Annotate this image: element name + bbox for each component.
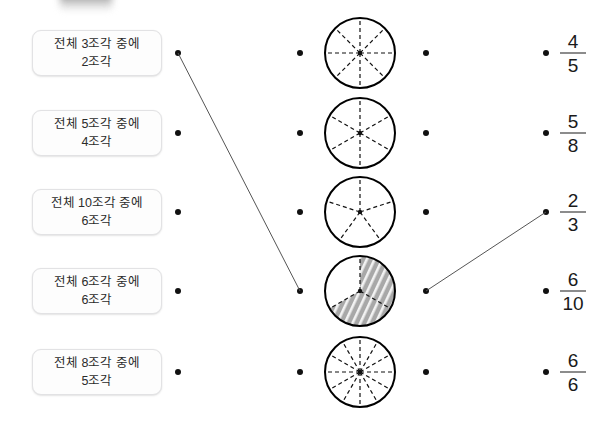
option-card-label: 전체 3조각 중에2조각 [54, 35, 140, 71]
fraction-2[interactable]: 58 [556, 112, 590, 155]
fraction-numerator: 6 [556, 270, 590, 291]
connector-dot-c1-r5[interactable] [175, 369, 181, 375]
blurred-ui-fragment [60, 0, 112, 10]
connector-dot-c4-r1[interactable] [543, 50, 549, 56]
circle-center-dot [358, 370, 362, 374]
sector-divider [360, 28, 385, 53]
option-card-line2: 6조각 [82, 293, 113, 307]
sector-divider [335, 28, 360, 53]
circle-center-dot [358, 51, 362, 55]
option-card-5[interactable]: 전체 8조각 중에5조각 [32, 349, 162, 395]
sector-divider [327, 201, 360, 212]
circle-6-parts[interactable] [322, 95, 398, 171]
option-card-label: 전체 8조각 중에5조각 [54, 354, 140, 390]
connector-dot-c1-r1[interactable] [175, 50, 181, 56]
sector-divider [360, 116, 390, 134]
fraction-numerator: 4 [556, 32, 590, 53]
connector-dot-c4-r4[interactable] [543, 288, 549, 294]
fraction-denominator: 3 [556, 213, 590, 234]
option-card-line2: 4조각 [82, 135, 113, 149]
option-card-2[interactable]: 전체 5조각 중에4조각 [32, 110, 162, 156]
connector-dot-c1-r4[interactable] [175, 288, 181, 294]
sector-divider [360, 201, 393, 212]
connector-dot-c3-r4[interactable] [423, 288, 429, 294]
connector-dot-c2-r3[interactable] [297, 209, 303, 215]
connector-dot-c3-r3[interactable] [423, 209, 429, 215]
option-card-1[interactable]: 전체 3조각 중에2조각 [32, 30, 162, 76]
option-card-line1: 전체 5조각 중에 [54, 117, 140, 131]
option-card-label: 전체 5조각 중에4조각 [54, 115, 140, 151]
option-card-line1: 전체 10조각 중에 [51, 196, 144, 210]
fraction-numerator: 2 [556, 191, 590, 212]
connector-dot-c1-r2[interactable] [175, 130, 181, 136]
option-card-label: 전체 10조각 중에6조각 [51, 194, 144, 230]
fraction-denominator: 6 [556, 373, 590, 394]
circle-3-parts-2-shaded[interactable] [322, 253, 398, 329]
link-text1-to-circle4[interactable] [178, 53, 300, 291]
fraction-denominator: 10 [556, 292, 590, 313]
option-card-line2: 6조각 [82, 214, 113, 228]
connector-dot-c3-r1[interactable] [423, 50, 429, 56]
sector-divider [330, 116, 360, 134]
option-card-line1: 전체 8조각 중에 [54, 356, 140, 370]
connector-dot-c2-r2[interactable] [297, 130, 303, 136]
sector-divider [360, 53, 385, 78]
connector-dot-c2-r5[interactable] [297, 369, 303, 375]
circle-center-dot [358, 210, 362, 214]
worksheet-canvas: 전체 3조각 중에2조각전체 5조각 중에4조각전체 10조각 중에6조각전체 … [0, 0, 607, 422]
option-card-line2: 5조각 [82, 374, 113, 388]
connector-dot-c3-r5[interactable] [423, 369, 429, 375]
fraction-denominator: 8 [556, 134, 590, 155]
circle-8-parts[interactable] [322, 15, 398, 91]
connector-dot-c2-r4[interactable] [297, 288, 303, 294]
connector-dot-c4-r3[interactable] [543, 209, 549, 215]
fraction-3[interactable]: 23 [556, 191, 590, 234]
connector-dot-c1-r3[interactable] [175, 209, 181, 215]
sector-divider [335, 53, 360, 78]
fraction-numerator: 5 [556, 112, 590, 133]
sector-divider [330, 133, 360, 151]
sector-divider [339, 212, 360, 240]
option-card-3[interactable]: 전체 10조각 중에6조각 [32, 189, 162, 235]
fraction-denominator: 5 [556, 54, 590, 75]
option-card-4[interactable]: 전체 6조각 중에6조각 [32, 268, 162, 314]
fraction-1[interactable]: 45 [556, 32, 590, 75]
link-circle4-to-fraction3[interactable] [426, 212, 546, 291]
circle-center-dot [358, 289, 362, 293]
option-card-line2: 2조각 [82, 55, 113, 69]
connector-dot-c4-r2[interactable] [543, 130, 549, 136]
option-card-line1: 전체 3조각 중에 [54, 37, 140, 51]
fraction-5[interactable]: 66 [556, 351, 590, 394]
connector-dot-c4-r5[interactable] [543, 369, 549, 375]
fraction-4[interactable]: 610 [556, 270, 590, 313]
circle-5-parts[interactable] [322, 174, 398, 250]
connector-dot-c2-r1[interactable] [297, 50, 303, 56]
option-card-line1: 전체 6조각 중에 [54, 275, 140, 289]
sector-divider [360, 212, 381, 240]
circle-12-parts[interactable] [322, 334, 398, 410]
circle-center-dot [358, 131, 362, 135]
sector-divider [360, 133, 390, 151]
fraction-numerator: 6 [556, 351, 590, 372]
connector-dot-c3-r2[interactable] [423, 130, 429, 136]
option-card-label: 전체 6조각 중에6조각 [54, 273, 140, 309]
